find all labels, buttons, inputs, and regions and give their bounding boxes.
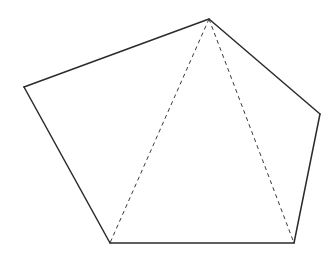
edge-top-right <box>209 19 320 114</box>
diagonal-top-bottom-right <box>209 19 294 243</box>
edge-right-bottom-right <box>294 114 320 243</box>
edge-left-top <box>24 19 209 87</box>
pentagon-diagram <box>0 0 336 264</box>
pentagon-edges <box>24 19 320 243</box>
pentagon-diagonals <box>110 19 294 243</box>
edge-bottom-left-left <box>24 87 110 243</box>
diagonal-top-bottom-left <box>110 19 209 243</box>
